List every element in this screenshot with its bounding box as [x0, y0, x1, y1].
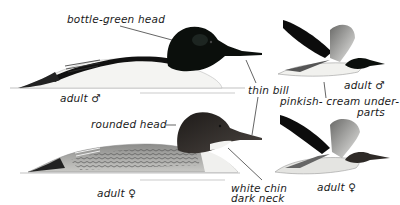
field-guide-plate: bottle-green head adult ♂ thin bill adul…	[0, 0, 400, 205]
label-bottle-green-head: bottle-green head	[67, 14, 165, 25]
label-adult-female-swimming: adult ♀	[97, 188, 136, 199]
label-underparts-line2: parts	[357, 107, 385, 118]
label-adult-male-flying: adult ♂	[344, 80, 385, 91]
label-dark-neck: dark neck	[231, 193, 285, 204]
label-adult-female-flying: adult ♀	[317, 182, 356, 193]
male-flying-figure	[278, 20, 385, 76]
female-flying-figure	[275, 115, 390, 174]
label-rounded-head: rounded head	[91, 119, 167, 130]
male-swimming-figure	[10, 27, 262, 93]
label-adult-male-swimming: adult ♂	[60, 93, 101, 104]
